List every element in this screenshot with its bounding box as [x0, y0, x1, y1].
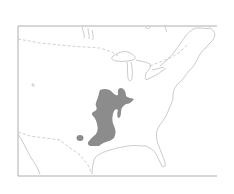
- range-area: [88, 88, 134, 146]
- outlier-population: [77, 135, 84, 141]
- range-map: [0, 0, 234, 194]
- map-canvas: [0, 0, 234, 194]
